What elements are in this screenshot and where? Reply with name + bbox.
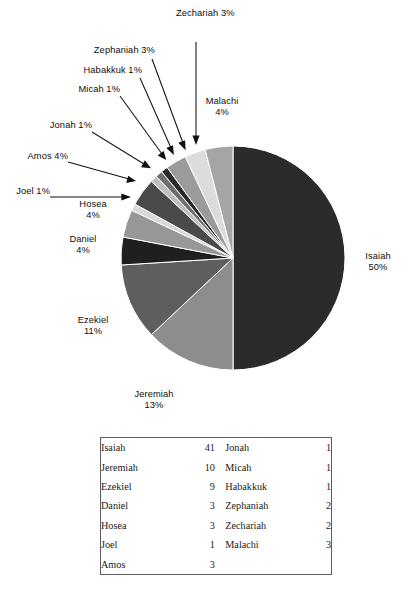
table-cell-count-left: 3	[167, 516, 215, 535]
callout-label-daniel-pct: 4%	[76, 245, 90, 255]
callout-label-jeremiah-name: Jeremiah	[134, 389, 173, 399]
table-cell-book-left: Isaiah	[101, 438, 167, 457]
table-cell-count-left: 3	[167, 496, 215, 515]
table-cell-spacer	[215, 496, 225, 515]
table-cell-book-right: Malachi	[225, 535, 298, 554]
table-row: Joel1Malachi3	[101, 535, 331, 554]
counts-table-grid: Isaiah41Jonah1Jeremiah10Micah1Ezekiel9Ha…	[101, 438, 331, 574]
callout-label-hosea: Hosea 4%	[72, 199, 114, 221]
table-cell-count-right: 1	[298, 477, 331, 496]
callout-label-isaiah: Isaiah 50%	[358, 251, 398, 273]
table-row: Jeremiah10Micah1	[101, 457, 331, 476]
table-row: Amos3	[101, 555, 331, 574]
callout-label-habakkuk: Habakkuk 1%	[32, 65, 142, 76]
table-cell-book-right: Zechariah	[225, 516, 298, 535]
callout-label-isaiah-name: Isaiah	[365, 251, 390, 261]
leader-line-habakkuk	[140, 78, 171, 148]
table-cell-book-left: Amos	[101, 555, 167, 574]
pie-chart-area: Zechariah 3% Zephaniah 3% Habakkuk 1% Mi…	[0, 0, 420, 430]
table-cell-book-right	[225, 555, 298, 574]
table-cell-spacer	[215, 555, 225, 574]
leader-arrowhead-joel	[121, 193, 131, 200]
table-cell-spacer	[215, 516, 225, 535]
leader-arrowhead-jonah	[141, 160, 151, 168]
table-cell-count-left: 3	[167, 555, 215, 574]
leader-line-zephaniah	[152, 59, 183, 143]
callout-label-jeremiah: Jeremiah 13%	[128, 389, 180, 411]
callout-label-ezekiel: Ezekiel 11%	[70, 315, 116, 337]
callout-label-daniel: Daniel 4%	[62, 234, 104, 256]
leader-line-jonah	[92, 132, 144, 164]
callout-label-zechariah: Zechariah 3%	[176, 8, 235, 19]
callout-label-micah: Micah 1%	[28, 84, 120, 95]
pie-slice-isaiah[interactable]	[233, 146, 345, 370]
table-cell-count-left: 41	[167, 438, 215, 457]
callout-label-joel: Joel 1%	[0, 186, 50, 197]
table-cell-book-right: Micah	[225, 457, 298, 476]
table-cell-count-right: 2	[298, 516, 331, 535]
table-row: Isaiah41Jonah1	[101, 438, 331, 457]
leader-arrowhead-zephaniah	[178, 140, 185, 150]
table-cell-spacer	[215, 438, 225, 457]
table-cell-count-right: 3	[298, 535, 331, 554]
callout-label-malachi: Malachi 4%	[198, 96, 246, 118]
callout-label-jonah: Jonah 1%	[10, 120, 92, 131]
table-cell-count-right: 1	[298, 438, 331, 457]
table-cell-count-left: 10	[167, 457, 215, 476]
callout-label-hosea-name: Hosea	[79, 199, 106, 209]
table-cell-count-right: 2	[298, 496, 331, 515]
table-cell-spacer	[215, 477, 225, 496]
table-row: Ezekiel9Habakkuk1	[101, 477, 331, 496]
counts-table: Isaiah41Jonah1Jeremiah10Micah1Ezekiel9Ha…	[100, 437, 332, 575]
callout-label-malachi-pct: 4%	[215, 107, 229, 117]
callout-label-malachi-name: Malachi	[206, 96, 239, 106]
table-cell-book-left: Ezekiel	[101, 477, 167, 496]
table-cell-book-right: Zephaniah	[225, 496, 298, 515]
table-cell-count-right	[298, 555, 331, 574]
callout-label-ezekiel-name: Ezekiel	[78, 315, 109, 325]
table-cell-book-right: Habakkuk	[225, 477, 298, 496]
leader-arrowhead-micah	[158, 151, 167, 160]
table-cell-book-right: Jonah	[225, 438, 298, 457]
leader-arrowhead-amos	[126, 176, 136, 183]
leader-line-amos	[68, 162, 129, 179]
callout-label-hosea-pct: 4%	[86, 210, 100, 220]
callout-label-isaiah-pct: 50%	[369, 262, 388, 272]
leader-arrowhead-habakkuk	[166, 145, 174, 155]
pie-slice-group	[121, 146, 345, 370]
table-cell-spacer	[215, 535, 225, 554]
table-cell-book-left: Jeremiah	[101, 457, 167, 476]
leader-arrowhead-zechariah	[192, 136, 199, 146]
table-cell-spacer	[215, 457, 225, 476]
table-cell-book-left: Joel	[101, 535, 167, 554]
callout-label-jeremiah-pct: 13%	[145, 400, 164, 410]
table-row: Daniel3Zephaniah2	[101, 496, 331, 515]
pie-chart-figure: Zechariah 3% Zephaniah 3% Habakkuk 1% Mi…	[0, 0, 420, 605]
callout-label-zephaniah: Zephaniah 3%	[40, 45, 155, 56]
callout-label-amos: Amos 4%	[0, 151, 68, 162]
table-cell-book-left: Daniel	[101, 496, 167, 515]
table-cell-count-left: 9	[167, 477, 215, 496]
callout-label-daniel-name: Daniel	[70, 234, 97, 244]
table-row: Hosea3Zechariah2	[101, 516, 331, 535]
table-cell-count-right: 1	[298, 457, 331, 476]
table-cell-book-left: Hosea	[101, 516, 167, 535]
leader-line-micah	[120, 96, 162, 154]
callout-label-ezekiel-pct: 11%	[84, 326, 102, 336]
table-cell-count-left: 1	[167, 535, 215, 554]
